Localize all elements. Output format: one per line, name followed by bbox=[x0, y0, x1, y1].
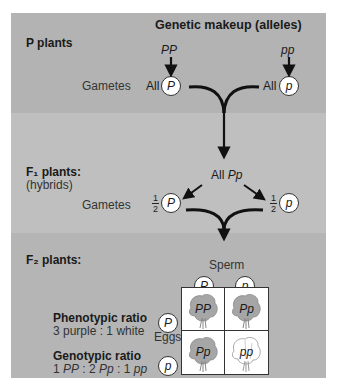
merge-arrow-f1-to-f2-icon bbox=[186, 210, 263, 235]
split-arrow-right-icon bbox=[244, 185, 261, 197]
genetics-diagram-panel: Genetic makeup (alleles) P plants PP pp … bbox=[11, 13, 326, 378]
merge-arrow-p-to-f1-icon bbox=[189, 87, 259, 153]
arrows-layer bbox=[11, 13, 326, 378]
split-arrow-left-icon bbox=[187, 185, 202, 196]
